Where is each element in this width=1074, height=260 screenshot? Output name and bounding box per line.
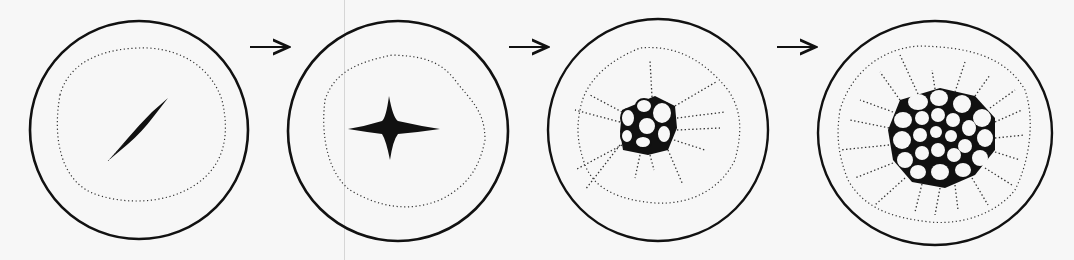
star-core <box>348 96 440 160</box>
stage-3 <box>548 19 768 241</box>
spindle-core <box>109 98 168 160</box>
stage-1 <box>30 21 248 239</box>
diagram-canvas <box>0 0 1074 260</box>
stage-2 <box>288 21 508 241</box>
cell-network <box>888 88 995 188</box>
stage-4 <box>818 21 1052 245</box>
cell-cluster <box>620 96 677 155</box>
